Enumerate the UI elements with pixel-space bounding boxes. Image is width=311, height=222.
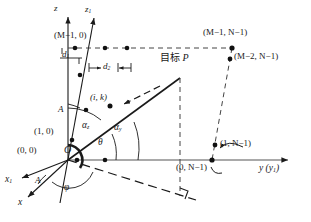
axis-z1 [60, 18, 94, 203]
label-1-n-1: (1, N−1) [220, 139, 251, 148]
diagram-vector-layer [0, 0, 311, 222]
label-m-2-n-1: (M−2, N−1) [234, 52, 278, 61]
spacing-label-d1: d1 [62, 50, 69, 59]
origin-label: O [64, 145, 71, 155]
axis-label-z: z [54, 4, 58, 13]
array-element-ik [108, 104, 113, 109]
arc-theta [112, 134, 116, 160]
label-0-0: (0, 0) [17, 146, 37, 155]
axis-label-y: y (y1) [259, 164, 279, 174]
angle-label-theta: θ [98, 138, 103, 148]
ik-pointer-arrow [124, 86, 160, 104]
spacing-label-d2: d2 [103, 62, 110, 71]
target-label: 目标 P [160, 53, 189, 63]
axis-label-z1: z1 [85, 5, 91, 14]
angle-label-alpha-y: αy [114, 123, 122, 133]
axis-label-x1: x1 [5, 175, 12, 185]
target-vector [68, 78, 180, 160]
angle-label-A-upper: A [58, 105, 64, 114]
label-0-n-1: (0, N−1) [176, 163, 207, 172]
arc-phi [52, 172, 93, 188]
zero-n-1-pointer-arc [211, 167, 222, 173]
right-angle-marker [180, 188, 188, 199]
angle-label-phi: φ [64, 183, 69, 193]
label-i-k: (i, k) [90, 93, 107, 102]
axis-label-x: x [18, 198, 22, 208]
figure-canvas: z z1 y (y1) x x1 O (M−1, 0) (M−1, N−1) (… [0, 0, 311, 222]
angle-label-alpha-z: αz [82, 121, 89, 131]
label-1-0: (1, 0) [34, 127, 54, 136]
label-m-1-n-1: (M−1, N−1) [203, 28, 247, 37]
angle-label-A-lower: A [35, 176, 41, 185]
label-m-1-0: (M−1, 0) [54, 31, 87, 40]
arc-alpha-y [134, 122, 139, 160]
